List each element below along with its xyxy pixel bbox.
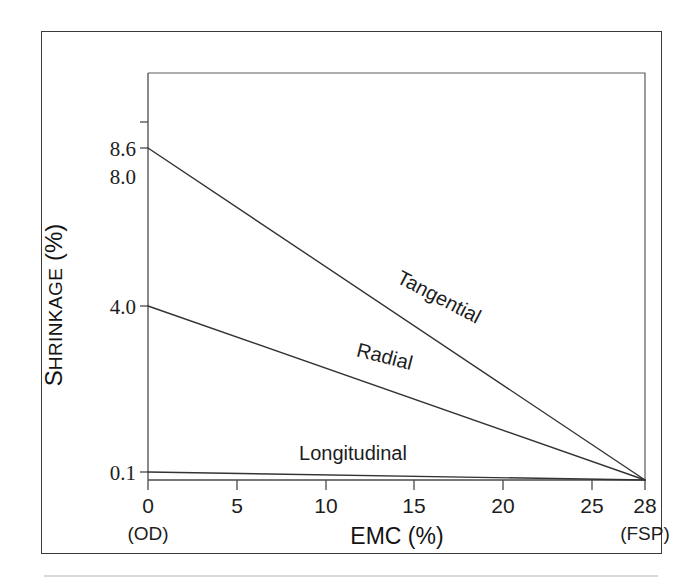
x-tick-label-25: 25	[580, 494, 603, 517]
y-tick-label-4.0: 4.0	[110, 295, 136, 319]
x-tick-label-28: 28	[633, 494, 656, 517]
series-label-radial: Radial	[355, 338, 415, 373]
x-tick-label-20: 20	[491, 494, 514, 517]
series-line-tangential	[148, 148, 645, 480]
y-tick-label-8.0: 8.0	[110, 165, 136, 189]
x-annotation-od: (OD)	[127, 523, 168, 544]
y-tick-label-0.1: 0.1	[110, 461, 136, 485]
x-tick-label-5: 5	[231, 494, 243, 517]
series-label-longitudinal: Longitudinal	[299, 442, 407, 464]
series-line-longitudinal	[148, 472, 645, 480]
x-tick-label-15: 15	[402, 494, 425, 517]
y-tick-label-8.6: 8.6	[110, 137, 136, 161]
x-tick-label-10: 10	[314, 494, 337, 517]
plot-frame-top-right	[148, 73, 645, 480]
x-axis-title: EMC (%)	[350, 523, 443, 549]
x-tick-label-0: 0	[142, 494, 154, 517]
series-label-tangential: Tangential	[394, 266, 485, 328]
x-annotation-fsp: (FSP)	[620, 523, 670, 544]
shrinkage-vs-emc-chart: 8.6 8.0 4.0 0.1 0 5 10 15 20 25 28 (OD) …	[0, 0, 694, 588]
